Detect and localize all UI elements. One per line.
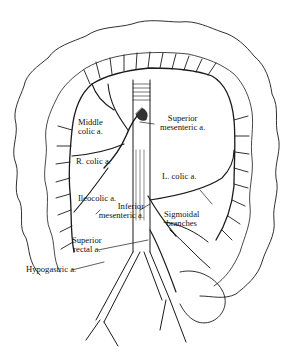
- label-inferior-mesenteric: Inferior mesenteric a.: [94, 202, 144, 220]
- colon-outline: [14, 21, 279, 298]
- label-superior-rectal: Superior rectal a.: [72, 236, 102, 254]
- label-l-colic: L. colic a.: [162, 172, 196, 181]
- hypogastric-branch: [86, 300, 186, 346]
- label-line: branches: [164, 219, 199, 228]
- common-iliac-right: [144, 252, 170, 300]
- label-line: mesenteric a.: [94, 211, 144, 220]
- anatomy-drawing: [0, 0, 286, 361]
- label-line: mesenteric a.: [160, 123, 205, 132]
- aorta: [133, 80, 150, 252]
- label-superior-mesenteric: Superior mesenteric a.: [160, 114, 205, 132]
- label-middle-colic: Middle colic a.: [78, 118, 103, 136]
- colon-arterial-diagram: Middle colic a. Superior mesenteric a. R…: [0, 0, 286, 361]
- label-r-colic: R. colic a.: [76, 157, 111, 166]
- label-line: colic a.: [78, 127, 103, 136]
- label-line: rectal a.: [72, 245, 102, 254]
- label-hypogastric: Hypogastric a.: [26, 265, 76, 274]
- label-sigmoidal-branches: Sigmoidal branches: [164, 210, 199, 228]
